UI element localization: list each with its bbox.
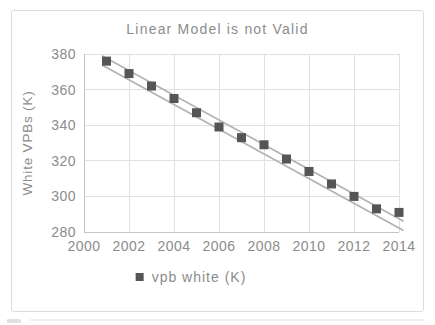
y-tick-label: 360 <box>51 82 76 98</box>
data-point[interactable] <box>305 167 314 176</box>
data-point[interactable] <box>372 204 381 213</box>
y-tick-label: 380 <box>51 46 76 62</box>
data-point[interactable] <box>237 133 246 142</box>
legend-marker-square <box>136 273 144 281</box>
x-tick-label: 2008 <box>247 238 280 254</box>
x-tick-label: 2014 <box>382 238 415 254</box>
data-point[interactable] <box>125 69 134 78</box>
data-point[interactable] <box>260 140 269 149</box>
data-point[interactable] <box>395 208 404 217</box>
legend[interactable]: vpb white (K) <box>136 269 247 285</box>
data-point[interactable] <box>147 82 156 91</box>
x-tick-label: 2012 <box>337 238 370 254</box>
x-tick-label: 2004 <box>157 238 190 254</box>
y-tick-label: 320 <box>51 153 76 169</box>
legend-label: vpb white (K) <box>152 269 247 285</box>
cropped-caption-smudge <box>7 319 21 323</box>
data-point[interactable] <box>170 94 179 103</box>
data-point[interactable] <box>282 155 291 164</box>
y-axis-title[interactable]: White VPBs (K) <box>20 91 35 196</box>
x-tick-label: 2006 <box>202 238 235 254</box>
data-point[interactable] <box>327 179 336 188</box>
chart-title[interactable]: Linear Model is not Valid <box>0 21 435 37</box>
data-point[interactable] <box>102 57 111 66</box>
y-tick-label: 340 <box>51 117 76 133</box>
x-tick-label: 2002 <box>112 238 145 254</box>
x-tick-label: 2010 <box>292 238 325 254</box>
chart-canvas: 2803003203403603802000200220042006200820… <box>0 0 435 325</box>
data-point[interactable] <box>192 108 201 117</box>
x-tick-label: 2000 <box>67 238 100 254</box>
y-tick-label: 300 <box>51 188 76 204</box>
data-point[interactable] <box>350 192 359 201</box>
data-point[interactable] <box>215 122 224 131</box>
cropped-caption-smudge <box>30 319 425 321</box>
